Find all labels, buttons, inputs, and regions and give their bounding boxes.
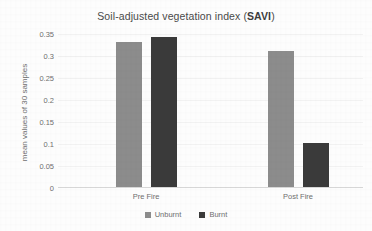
gridline <box>58 100 363 101</box>
legend-label: Unburnt <box>155 210 182 219</box>
chart-title-emphasis: SAVI <box>247 10 271 22</box>
y-axis-tick-label: 0.05 <box>10 162 54 171</box>
y-axis-tick-label: 0.15 <box>10 118 54 127</box>
legend-item-unburnt[interactable]: Unburnt <box>145 210 182 219</box>
x-axis-category-label: Post Fire <box>283 192 313 201</box>
gridline <box>58 34 363 35</box>
bar-unburnt-pre-fire <box>116 42 142 187</box>
y-axis-tick-label: 0.3 <box>10 52 54 61</box>
y-axis-tick-label: 0.25 <box>10 74 54 83</box>
x-axis-line <box>58 187 363 188</box>
bar-burnt-pre-fire <box>151 37 177 187</box>
y-axis-tick-label: 0.35 <box>10 30 54 39</box>
y-axis-tick-label: 0.2 <box>10 96 54 105</box>
chart-legend: UnburntBurnt <box>0 210 372 219</box>
legend-item-burnt[interactable]: Burnt <box>199 210 227 219</box>
chart-title-text: Soil-adjusted vegetation index ( <box>97 10 247 22</box>
y-axis-tick-labels: 0.350.30.250.20.150.10.050 <box>8 34 54 188</box>
chart-container: Soil-adjusted vegetation index (SAVI) me… <box>0 0 372 231</box>
bar-burnt-post-fire <box>303 143 329 187</box>
y-axis-tick-label: 0.1 <box>10 140 54 149</box>
chart-title-tail: ) <box>271 10 275 22</box>
legend-label: Burnt <box>209 210 227 219</box>
y-axis-tick-label: 0 <box>10 184 54 193</box>
bar-unburnt-post-fire <box>268 51 294 187</box>
gridline <box>58 56 363 57</box>
chart-title: Soil-adjusted vegetation index (SAVI) <box>0 10 372 22</box>
gridline <box>58 78 363 79</box>
x-axis-category-label: Pre Fire <box>133 192 160 201</box>
legend-swatch-icon <box>145 212 151 218</box>
gridline <box>58 122 363 123</box>
plot-area <box>58 34 363 188</box>
legend-swatch-icon <box>199 212 205 218</box>
